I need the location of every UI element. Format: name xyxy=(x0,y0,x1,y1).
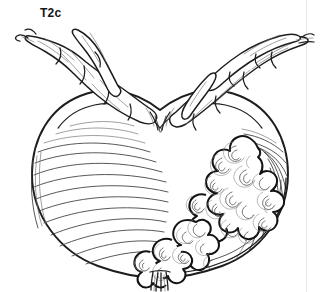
bladder-illustration xyxy=(0,0,320,292)
stage-label: T2c xyxy=(40,6,61,20)
figure-root: T2c xyxy=(0,0,320,292)
